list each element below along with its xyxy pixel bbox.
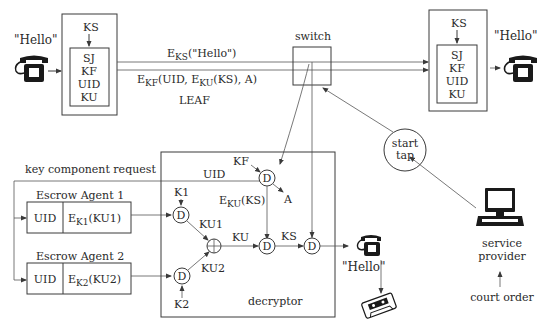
k2-key-label: K2 — [174, 298, 189, 311]
a-output-label: A — [283, 193, 293, 206]
decryptor-label: decryptor — [248, 295, 303, 308]
right-ks-input-label: KS — [451, 17, 467, 30]
kf-key-label: KF — [233, 155, 249, 168]
k1-decrypt-node: D — [177, 209, 186, 222]
xor-combiner-icon — [207, 239, 221, 253]
escrow-agent-1-title: Escrow Agent 1 — [36, 189, 124, 202]
escrow-agent-2-title: Escrow Agent 2 — [36, 250, 124, 263]
eks-hello-label: EKS("Hello") — [167, 47, 236, 62]
decryptor: decryptor D KF UID A EKU(KS) D K1 KU1 D … — [161, 152, 335, 317]
key-request-label: key component request — [25, 163, 156, 176]
right-decryption-device: KS SJ KF UID KU — [429, 10, 500, 111]
left-telephone-icon — [16, 56, 49, 83]
right-field-uid: UID — [446, 75, 469, 88]
ku2-label: KU2 — [201, 262, 225, 275]
ks-decrypt-node: D — [308, 240, 317, 253]
channel: EKS("Hello") EKF(UID, EKU(KS), A) LEAF — [117, 47, 428, 107]
ku1-label: KU1 — [199, 218, 223, 231]
output-telephone-icon — [357, 235, 381, 256]
start-tap-line2: tap — [396, 149, 414, 162]
service-provider: service provider court order — [410, 157, 535, 304]
k1-key-label: K1 — [174, 186, 189, 199]
right-field-kf: KF — [449, 62, 465, 75]
right-telephone-icon — [505, 56, 538, 83]
left-ks-input-label: KS — [83, 21, 99, 34]
right-hello-label: "Hello" — [494, 29, 538, 43]
leaf-contents-label: EKF(UID, EKU(KS), A) — [137, 73, 257, 88]
k2-decrypt-node: D — [178, 270, 187, 283]
right-field-sj: SJ — [451, 49, 463, 62]
leaf-decrypt-node: D — [263, 172, 272, 185]
uid-label: UID — [203, 168, 226, 181]
service-provider-line1: service — [482, 237, 522, 250]
cassette-tape-icon — [361, 293, 397, 319]
leaf-label: LEAF — [179, 94, 210, 107]
switch-label: switch — [295, 30, 331, 43]
eku-ks-label: EKU(KS) — [219, 194, 265, 209]
switch: switch — [280, 30, 331, 248]
court-order-label: court order — [470, 291, 534, 304]
escrow-agent-2-encrypted-key: EK2(KU2) — [68, 273, 121, 288]
escrow-encryption-diagram: "Hello" KS SJ KF UID KU EKS("Hello") EKF… — [0, 0, 545, 329]
right-phone-group: "Hello" — [494, 29, 538, 82]
computer-terminal-icon — [476, 188, 524, 226]
service-provider-line2: provider — [478, 250, 526, 263]
left-field-uid: UID — [78, 78, 101, 91]
ku-label: KU — [232, 231, 249, 244]
ks-label: KS — [281, 230, 297, 243]
ku-decrypt-node: D — [263, 240, 272, 253]
output-phone-group: "Hello" — [320, 235, 397, 319]
escrow-agent-1: Escrow Agent 1 UID EK1(KU1) — [27, 189, 171, 233]
escrow-agent-2: Escrow Agent 2 UID EK2(KU2) — [27, 250, 171, 294]
left-field-ku: KU — [80, 91, 97, 104]
escrow-agent-1-uid: UID — [34, 212, 57, 225]
escrow-agent-2-uid: UID — [34, 273, 57, 286]
escrow-agent-1-encrypted-key: EK1(KU1) — [68, 212, 121, 227]
left-field-kf: KF — [81, 65, 97, 78]
right-field-ku: KU — [448, 88, 465, 101]
start-tap-node: start tap — [323, 88, 426, 171]
left-phone-group: "Hello" — [14, 33, 61, 82]
left-hello-label: "Hello" — [14, 33, 58, 47]
output-hello-label: "Hello" — [342, 260, 386, 274]
left-encryption-device: KS SJ KF UID KU — [62, 14, 117, 115]
left-field-sj: SJ — [83, 52, 95, 65]
